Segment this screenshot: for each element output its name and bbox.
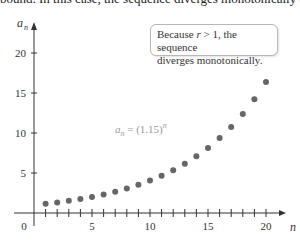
- y-axis-label: a: [17, 16, 23, 30]
- callout-annotation: Because r > 1, the sequence diverges mon…: [150, 24, 278, 56]
- data-point: [182, 161, 188, 167]
- y-tick-label: 5: [21, 167, 27, 179]
- y-tick-label: 15: [15, 87, 27, 99]
- y-tick-label: 10: [15, 127, 27, 139]
- x-tick-label: 10: [145, 220, 157, 232]
- data-point: [159, 173, 165, 179]
- data-point: [89, 194, 95, 200]
- data-point: [135, 182, 141, 188]
- data-point: [66, 198, 72, 204]
- x-axis-arrow-icon: [279, 210, 286, 216]
- data-point: [54, 199, 60, 205]
- data-point: [101, 192, 107, 198]
- data-point: [147, 178, 153, 184]
- data-point: [77, 196, 83, 202]
- data-point: [263, 79, 269, 85]
- data-point: [228, 124, 234, 130]
- x-tick-label: 5: [89, 220, 95, 232]
- x-tick-label: 20: [261, 220, 273, 232]
- data-point: [170, 167, 176, 173]
- data-point: [251, 96, 257, 102]
- x-axis-label: n: [290, 220, 296, 234]
- data-point: [217, 135, 223, 141]
- callout-text: Because: [157, 28, 196, 40]
- data-point: [112, 189, 118, 195]
- formula-label: an = (1.15)n: [115, 121, 167, 138]
- data-point: [205, 145, 211, 151]
- data-point: [240, 111, 246, 117]
- x-tick-label: 15: [203, 220, 215, 232]
- y-axis-label-subscript: n: [24, 23, 28, 32]
- x-tick-label: 0: [21, 220, 27, 232]
- data-point: [43, 201, 49, 207]
- data-point: [193, 153, 199, 159]
- y-tick-label: 20: [15, 47, 27, 59]
- y-axis-arrow-icon: [31, 22, 37, 30]
- callout-text: diverges monotonically.: [157, 54, 271, 67]
- data-point: [124, 186, 130, 192]
